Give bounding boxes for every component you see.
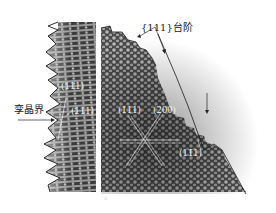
plane-label-111-top: (111) bbox=[61, 81, 84, 91]
plane-label-111-bottom: (111) bbox=[71, 106, 94, 116]
plane-label-200: (200) bbox=[153, 105, 176, 115]
panel-divider bbox=[96, 18, 101, 194]
twin-boundary-label: 孪晶界 bbox=[14, 104, 44, 115]
plane-label-111-right: (111) bbox=[118, 105, 141, 115]
panel-corner-mark: a bbox=[104, 194, 108, 201]
plane-label-11-1: (11̄1) bbox=[179, 148, 202, 158]
step-label: {111}台阶 bbox=[141, 22, 193, 33]
